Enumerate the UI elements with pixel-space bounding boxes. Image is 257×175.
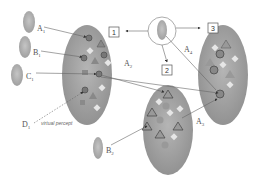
diagram-canvas: 1 2 3 A1 B1 C1 D1 B2 A2 A3 A4 virtual pe… bbox=[0, 0, 257, 175]
source-c1-ellipse bbox=[11, 64, 23, 86]
virtual-percept-label: virtual percept bbox=[41, 120, 73, 126]
source-b2-ellipse bbox=[93, 137, 103, 159]
svg-text:1: 1 bbox=[112, 29, 116, 36]
label-a1: A1 bbox=[37, 24, 46, 34]
cluster-3-ellipse bbox=[198, 25, 248, 125]
svg-text:3: 3 bbox=[211, 25, 215, 32]
label-b2: B2 bbox=[106, 146, 114, 156]
cluster-3-box: 3 bbox=[208, 23, 218, 33]
label-c1: C1 bbox=[26, 72, 34, 82]
label-b1: B1 bbox=[33, 48, 41, 58]
label-a2: A2 bbox=[124, 59, 133, 69]
source-a1-ellipse bbox=[23, 11, 35, 33]
focus-ellipse bbox=[157, 20, 167, 40]
label-a3: A3 bbox=[196, 117, 205, 127]
source-b1-ellipse bbox=[19, 36, 31, 58]
svg-text:2: 2 bbox=[165, 67, 169, 74]
label-d1: D1 bbox=[22, 120, 31, 130]
cluster-1-box: 1 bbox=[109, 27, 119, 37]
label-a4: A4 bbox=[184, 45, 193, 55]
cluster-2-box: 2 bbox=[162, 65, 172, 75]
